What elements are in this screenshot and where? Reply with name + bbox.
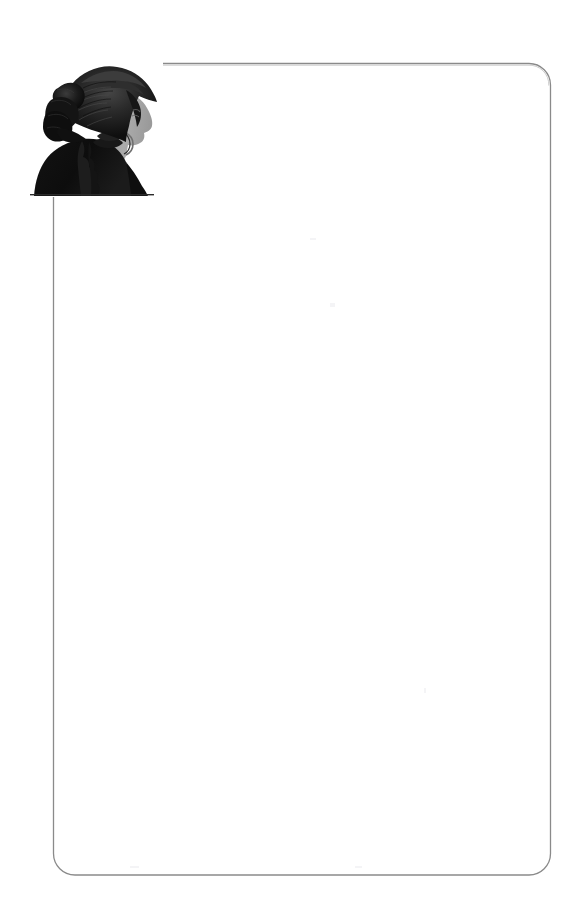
silhouette-portrait-icon <box>27 38 163 197</box>
silhouette-portrait-illustration <box>27 38 163 197</box>
illustration-baseline <box>30 194 154 195</box>
scanned-page <box>0 0 579 909</box>
